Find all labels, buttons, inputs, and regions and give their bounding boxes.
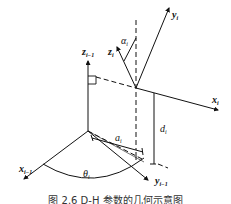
label-z-i: zi xyxy=(107,46,114,58)
common-normal-dashed xyxy=(96,77,136,88)
label-theta-i: θi xyxy=(83,168,90,180)
x-i-axis xyxy=(136,88,218,110)
label-y-im1: yi−1 xyxy=(154,175,168,187)
z-i-axis xyxy=(117,47,136,88)
x-im1-axis xyxy=(24,131,88,179)
label-alpha-i: αi xyxy=(121,35,128,47)
label-x-im1: xi−1 xyxy=(18,163,32,175)
dh-parameter-diagram: yi zi αi zi−1 xi di ai xi−1 θi yi−1 xyxy=(0,0,231,204)
figure-caption: 图 2.6 D-H 参数的几何示意图 xyxy=(0,192,231,204)
d-i-dash xyxy=(158,164,168,168)
label-z-im1: zi−1 xyxy=(81,46,94,58)
y-i-axis xyxy=(136,8,169,88)
label-a-i: ai xyxy=(115,132,122,144)
label-y-i: yi xyxy=(171,9,178,21)
label-x-i: xi xyxy=(211,94,219,106)
right-angle-marker xyxy=(88,76,96,84)
a-i-tick-right xyxy=(142,148,143,155)
label-d-i: di xyxy=(160,123,167,135)
theta-arc xyxy=(43,158,144,178)
